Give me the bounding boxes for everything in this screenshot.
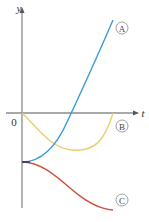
curve-c — [22, 162, 113, 210]
curve-c-label: C — [116, 194, 128, 206]
curve-b — [22, 113, 113, 150]
curve-b-label: B — [116, 120, 128, 132]
svg-text:C: C — [119, 196, 125, 206]
origin-label: 0 — [11, 116, 17, 128]
svg-text:B: B — [119, 122, 125, 132]
y-axis-label: y — [16, 2, 22, 14]
diagram-canvas: y t 0 A B C — [0, 0, 149, 222]
curve-a-label: A — [116, 22, 128, 34]
x-axis-label: t — [141, 107, 145, 119]
x-axis-arrow-icon — [133, 111, 139, 116]
svg-text:A: A — [119, 24, 126, 34]
